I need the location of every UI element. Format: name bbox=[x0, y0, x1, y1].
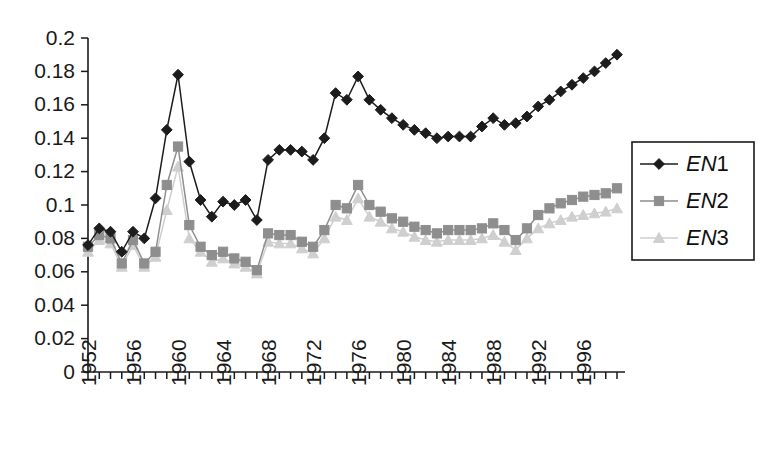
data-point-en2 bbox=[489, 219, 498, 228]
data-point-en2 bbox=[331, 200, 340, 209]
x-tick-label: 1960 bbox=[167, 339, 190, 386]
data-point-en2 bbox=[455, 225, 464, 234]
chart-legend: EN1EN2EN3 bbox=[632, 142, 754, 260]
data-point-en2 bbox=[579, 192, 588, 201]
data-point-en2 bbox=[444, 225, 453, 234]
data-point-en2 bbox=[185, 220, 194, 229]
data-point-en2 bbox=[309, 242, 318, 251]
y-tick-label: 0.12 bbox=[34, 159, 75, 182]
data-point-en2 bbox=[354, 180, 363, 189]
data-point-en2 bbox=[196, 242, 205, 251]
legend-label-en3: EN3 bbox=[686, 225, 729, 250]
legend-label-en2: EN2 bbox=[686, 188, 729, 213]
data-point-en2 bbox=[151, 247, 160, 256]
data-point-en2 bbox=[590, 190, 599, 199]
data-point-en2 bbox=[477, 224, 486, 233]
data-point-en2 bbox=[140, 259, 149, 268]
legend-marker-en2 bbox=[654, 196, 663, 205]
data-point-en2 bbox=[500, 225, 509, 234]
y-tick-label: 0.02 bbox=[34, 326, 75, 349]
legend-label-suffix: 3 bbox=[717, 225, 729, 250]
y-tick-label: 0.18 bbox=[34, 59, 75, 82]
data-point-en2 bbox=[410, 222, 419, 231]
data-point-en2 bbox=[432, 229, 441, 238]
y-tick-label: 0.2 bbox=[46, 26, 75, 49]
data-point-en2 bbox=[275, 230, 284, 239]
data-point-en2 bbox=[173, 142, 182, 151]
legend-label-en1: EN1 bbox=[686, 151, 729, 176]
data-point-en2 bbox=[387, 214, 396, 223]
data-point-en2 bbox=[534, 210, 543, 219]
data-point-en2 bbox=[399, 217, 408, 226]
data-point-en2 bbox=[286, 230, 295, 239]
data-point-en2 bbox=[241, 257, 250, 266]
data-point-en2 bbox=[117, 259, 126, 268]
data-point-en2 bbox=[252, 266, 261, 275]
data-point-en2 bbox=[162, 180, 171, 189]
legend-label-prefix: EN bbox=[686, 188, 717, 213]
x-tick-label: 1984 bbox=[437, 339, 460, 386]
x-tick-label: 1972 bbox=[302, 339, 325, 386]
data-point-en2 bbox=[365, 200, 374, 209]
y-tick-label: 0.04 bbox=[34, 293, 75, 316]
x-tick-label: 1952 bbox=[77, 339, 100, 386]
y-tick-label: 0.16 bbox=[34, 92, 75, 115]
data-point-en2 bbox=[466, 225, 475, 234]
data-point-en2 bbox=[207, 251, 216, 260]
legend-label-suffix: 1 bbox=[717, 151, 729, 176]
data-point-en2 bbox=[601, 189, 610, 198]
data-point-en2 bbox=[297, 237, 306, 246]
y-tick-label: 0.14 bbox=[34, 126, 75, 149]
data-point-en2 bbox=[545, 204, 554, 213]
data-point-en2 bbox=[522, 224, 531, 233]
data-point-en2 bbox=[556, 199, 565, 208]
data-point-en2 bbox=[421, 225, 430, 234]
y-tick-label: 0 bbox=[63, 360, 75, 383]
x-tick-label: 1980 bbox=[392, 339, 415, 386]
legend-label-prefix: EN bbox=[686, 225, 717, 250]
legend-label-suffix: 2 bbox=[717, 188, 729, 213]
y-tick-label: 0.08 bbox=[34, 226, 75, 249]
chart-figure: 0.20.180.160.140.120.10.080.060.040.020 … bbox=[0, 0, 761, 461]
y-tick-label: 0.06 bbox=[34, 259, 75, 282]
data-point-en2 bbox=[230, 254, 239, 263]
data-point-en2 bbox=[612, 184, 621, 193]
data-point-en2 bbox=[342, 204, 351, 213]
data-point-en2 bbox=[263, 229, 272, 238]
x-tick-label: 1964 bbox=[212, 339, 235, 386]
x-tick-label: 1988 bbox=[482, 339, 505, 386]
x-tick-label: 1992 bbox=[527, 339, 550, 386]
data-point-en2 bbox=[567, 195, 576, 204]
x-tick-label: 1996 bbox=[572, 339, 595, 386]
data-point-en2 bbox=[511, 235, 520, 244]
y-tick-label: 0.1 bbox=[46, 193, 75, 216]
data-point-en2 bbox=[320, 225, 329, 234]
x-tick-label: 1976 bbox=[347, 339, 370, 386]
data-point-en2 bbox=[218, 247, 227, 256]
legend-label-prefix: EN bbox=[686, 151, 717, 176]
x-tick-label: 1956 bbox=[122, 339, 145, 386]
data-point-en2 bbox=[376, 207, 385, 216]
x-tick-label: 1968 bbox=[257, 339, 280, 386]
line-chart-svg: 0.20.180.160.140.120.10.080.060.040.020 … bbox=[0, 0, 761, 461]
